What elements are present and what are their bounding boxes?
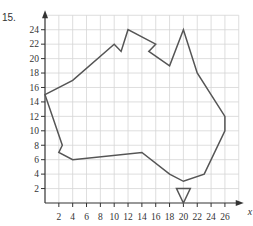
x-tick-label: 10 (109, 212, 119, 222)
x-tick-label: 20 (179, 212, 189, 222)
coordinate-grid-chart: 2468101214161820222426246810121416182022… (0, 0, 253, 226)
y-tick-label: 2 (34, 184, 39, 194)
x-tick-label: 8 (98, 212, 103, 222)
x-tick-label: 26 (220, 212, 230, 222)
x-tick-label: 4 (70, 212, 75, 222)
y-tick-label: 18 (30, 68, 40, 78)
x-tick-label: 12 (123, 212, 133, 222)
x-tick-label: 2 (56, 212, 61, 222)
x-axis-label: x (247, 206, 253, 217)
y-axis-arrow-icon (42, 10, 48, 18)
tick-labels: 2468101214161820222426246810121416182022… (30, 25, 253, 222)
y-tick-label: 10 (30, 126, 40, 136)
x-tick-label: 16 (151, 212, 161, 222)
y-tick-label: 20 (30, 54, 40, 64)
y-tick-label: 4 (34, 169, 39, 179)
x-axis-arrow-icon (236, 200, 244, 206)
x-tick-label: 14 (137, 212, 147, 222)
x-tick-label: 6 (84, 212, 89, 222)
y-tick-label: 16 (30, 83, 40, 93)
mainland-outline (45, 30, 225, 182)
axes (41, 10, 244, 207)
y-tick-label: 8 (34, 141, 39, 151)
y-tick-label: 24 (30, 25, 40, 35)
x-tick-label: 24 (206, 212, 216, 222)
y-tick-label: 6 (34, 155, 39, 165)
x-tick-label: 18 (165, 212, 175, 222)
y-tick-label: 22 (30, 39, 40, 49)
y-tick-label: 12 (30, 112, 40, 122)
y-tick-label: 14 (30, 97, 40, 107)
x-tick-label: 22 (192, 212, 202, 222)
grid-lines (45, 15, 239, 203)
